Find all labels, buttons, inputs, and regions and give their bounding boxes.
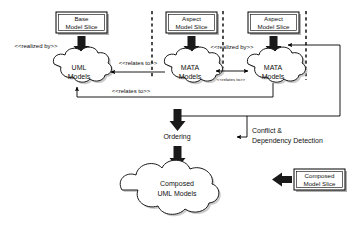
aspect-model-slice-2-box[interactable]: Aspect Model Slice [248,12,301,35]
mata-models-1-line1: MATA [181,64,200,71]
aspect-model-slice-1-line2: Model Slice [176,23,209,30]
conflict-detection-line2: Dependency Detection [252,137,323,145]
mata-models-1-cloud[interactable]: MATA Models [164,47,224,84]
diagram-canvas: Base Model Slice Aspect Model Slice Aspe… [0,0,359,225]
mata-models-1-line2: Models [179,73,202,80]
relates-to-arrow-bottom [77,83,273,97]
aspect-model-slice-2-line1: Aspect [264,15,283,22]
base-model-slice-box[interactable]: Base Model Slice [56,12,109,35]
composed-uml-models-line1: Composed [160,180,194,188]
composed-slice-arrow [272,173,292,187]
realized-by-label-left: <<realized by>> [14,43,58,49]
realized-by-label-middle: <<realized by>> [210,44,254,50]
composed-model-slice-box[interactable]: Composed Model Slice [294,169,347,192]
relates-to-label-middle: <<relates to>> [217,77,246,82]
ordering-inbound-arrow [170,109,186,131]
composed-uml-models-cloud[interactable]: Composed UML Models [120,160,221,216]
aspect-model-slice-1-box[interactable]: Aspect Model Slice [166,12,219,35]
base-model-slice-line2: Model Slice [66,23,99,30]
aspect-model-slice-2-line2: Model Slice [258,23,291,30]
relates-to-label-bottom: <<relates to>> [112,88,151,94]
uml-models-line1: UML [72,64,87,71]
mata-models-2-cloud[interactable]: MATA Models [247,47,307,84]
composed-model-slice-line1: Composed [305,172,335,179]
uml-models-line2: Models [68,73,91,80]
composed-model-slice-line2: Model Slice [304,180,337,187]
relates-to-label-top: <<relates to>> [119,60,158,66]
ordering-label: Ordering [163,133,190,141]
uml-models-cloud[interactable]: UML Models [53,47,113,84]
mata-models-2-line1: MATA [264,64,283,71]
aspect-model-slice-1-line1: Aspect [182,15,201,22]
conflict-detection-branch-arrow [237,116,247,137]
mata-models-2-line2: Models [262,73,285,80]
conflict-detection-line1: Conflict & [252,127,282,134]
composed-uml-models-line2: UML Models [157,190,197,197]
process-diagram: Base Model Slice Aspect Model Slice Aspe… [0,0,359,225]
base-model-slice-line1: Base [74,15,89,22]
